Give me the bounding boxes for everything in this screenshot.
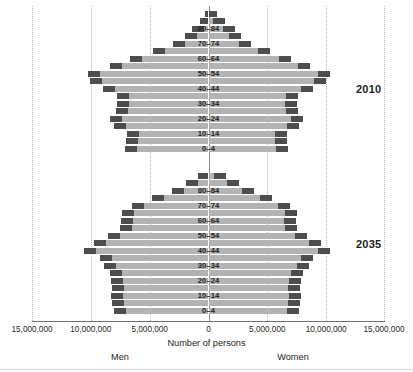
bar-cap	[301, 86, 313, 92]
bar-cap	[110, 270, 122, 276]
bar-cap	[114, 123, 126, 129]
bar-men	[112, 300, 208, 306]
bar-cap	[117, 93, 129, 99]
bar-cap	[152, 195, 164, 201]
bar-women	[209, 285, 301, 291]
plot-area: 80–8470–7460–6450–5440–4430–3420–2410–14…	[32, 6, 385, 321]
bar-cap	[122, 210, 134, 216]
bar-cap	[198, 173, 209, 179]
bar-cap	[90, 78, 102, 84]
age-group-label: 50–54	[189, 232, 229, 240]
xtick-minus-5m: 5,000,000	[131, 325, 167, 334]
bar-cap	[297, 263, 309, 269]
bar-women	[209, 255, 314, 261]
bar-cap	[278, 203, 290, 209]
bar-women	[209, 173, 227, 179]
age-group-label: 10–14	[189, 130, 229, 138]
pyramid-row: 40–44	[32, 247, 385, 255]
bar-cap	[260, 195, 272, 201]
bar-women	[209, 240, 321, 246]
pyramid-row: 20–24	[32, 277, 385, 285]
bar-cap	[110, 116, 122, 122]
bar-cap	[117, 101, 129, 107]
pyramid-row: 0–4	[32, 307, 385, 315]
pyramid-row: 50–54	[32, 70, 385, 78]
bar-cap	[309, 240, 321, 246]
pyramid-row: 60–64	[32, 217, 385, 225]
bar-cap	[227, 180, 239, 186]
bar-cap	[88, 71, 100, 77]
bar-cap	[258, 48, 270, 54]
bar-cap	[111, 278, 123, 284]
bar-women	[209, 210, 298, 216]
age-group-label: 60–64	[189, 55, 229, 63]
age-group-label: 80–84	[189, 187, 229, 195]
age-group-label: 70–74	[189, 202, 229, 210]
bar-cap	[291, 270, 303, 276]
age-group-label: 20–24	[189, 115, 229, 123]
age-group-label: 30–34	[189, 100, 229, 108]
bottom-divider	[0, 369, 413, 370]
bar-women	[209, 63, 310, 69]
bar-cap	[111, 293, 123, 299]
bar-cap	[104, 263, 116, 269]
xtick-minus-15m: 15,000,000	[12, 325, 53, 334]
bar-cap	[185, 33, 197, 39]
year-label-2035: 2035	[356, 238, 381, 250]
pyramid-row: 70–74	[32, 40, 385, 48]
bar-cap	[114, 308, 126, 314]
bar-women	[209, 123, 300, 129]
bar-cap	[130, 56, 142, 62]
pyramid-row: 20–24	[32, 115, 385, 123]
bar-cap	[285, 225, 297, 231]
bar-women	[209, 11, 218, 17]
bar-cap	[172, 188, 184, 194]
bar-women	[209, 300, 301, 306]
pyramid-row: 0–4	[32, 145, 385, 153]
side-label-women: Women	[277, 352, 309, 362]
age-group-label: 40–44	[189, 247, 229, 255]
bar-cap	[173, 41, 185, 47]
bar-cap	[214, 173, 226, 179]
x-axis-title: Number of persons	[0, 338, 413, 348]
pyramid-row: 40–44	[32, 85, 385, 93]
bar-men	[110, 63, 209, 69]
age-group-label: 40–44	[189, 85, 229, 93]
pyramid-row: 30–34	[32, 100, 385, 108]
bar-cap	[100, 255, 112, 261]
bar-cap	[108, 233, 120, 239]
bar-cap	[298, 63, 310, 69]
bar-cap	[112, 285, 124, 291]
bar-cap	[242, 188, 254, 194]
pyramid-row	[32, 10, 385, 18]
age-group-label: 10–14	[189, 292, 229, 300]
bar-cap	[132, 203, 144, 209]
age-group-label: 50–54	[189, 70, 229, 78]
xtick-plus-10m: 10,000,000	[306, 325, 347, 334]
bar-men	[100, 255, 208, 261]
bar-women	[209, 225, 297, 231]
bar-cap	[112, 300, 124, 306]
bar-cap	[94, 240, 106, 246]
pyramid-row: 30–34	[32, 262, 385, 270]
bar-cap	[314, 78, 326, 84]
bar-cap	[285, 101, 297, 107]
bar-cap	[186, 180, 198, 186]
bar-men	[116, 108, 209, 114]
age-group-label: 30–34	[189, 262, 229, 270]
bar-cap	[120, 225, 132, 231]
x-axis-line	[32, 321, 385, 322]
pyramid-row: 80–84	[32, 25, 385, 33]
xtick-plus-5m: 5,000,000	[249, 325, 285, 334]
age-group-label: 20–24	[189, 277, 229, 285]
bar-women	[209, 78, 327, 84]
bar-men	[117, 93, 208, 99]
bar-men	[120, 225, 209, 231]
bar-women	[209, 270, 303, 276]
bar-cap	[287, 308, 299, 314]
bar-men	[126, 138, 208, 144]
bar-cap	[275, 131, 287, 137]
bar-cap	[286, 108, 298, 114]
xtick-minus-10m: 10,000,000	[70, 325, 111, 334]
bar-cap	[84, 248, 96, 254]
